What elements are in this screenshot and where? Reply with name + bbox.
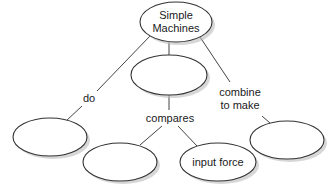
node-right-blank: [250, 121, 324, 159]
link-label-to-make: to make: [220, 99, 259, 111]
edge-combine-label-to-right: [262, 116, 270, 123]
node-middle-blank: [131, 55, 207, 95]
node-left-blank: [13, 118, 87, 156]
node-bottom-left-blank: [83, 143, 157, 181]
node-ellipse-middle: [131, 55, 207, 95]
node-label-machines: Machines: [152, 22, 200, 34]
node-label-input-force: input force: [192, 156, 243, 168]
link-label-do: do: [83, 92, 95, 104]
node-ellipse-left: [13, 118, 87, 156]
node-input-force: input force: [180, 143, 256, 181]
edge-compares-to-bottom-right: [178, 126, 197, 146]
node-ellipse-right: [250, 121, 324, 159]
node-label-simple: Simple: [159, 9, 193, 21]
concept-map: Simple Machines input force do compares …: [0, 0, 335, 194]
node-ellipse-bottom-left: [83, 143, 157, 181]
link-label-compares: compares: [146, 112, 195, 124]
link-label-combine: combine: [219, 86, 261, 98]
edge-do-label-to-left: [66, 106, 82, 121]
edge-compares-to-bottom-left: [140, 126, 162, 145]
node-simple-machines: Simple Machines: [140, 2, 212, 42]
